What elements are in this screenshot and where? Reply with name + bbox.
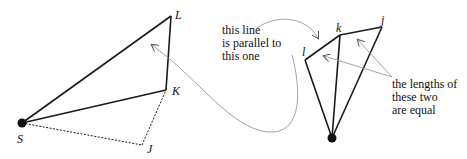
edge-SJ-dashed (22, 123, 142, 145)
parallel-note-line-3: this one (222, 50, 281, 63)
edge-Ol (305, 60, 332, 138)
label-K: K (172, 85, 180, 97)
label-L: L (175, 9, 182, 21)
equal-note-line-3: are equal (392, 104, 457, 117)
label-S: S (17, 133, 23, 145)
edge-lk (305, 35, 340, 60)
equal-arrows (324, 40, 392, 77)
edge-SL (22, 16, 171, 123)
right-figure (305, 27, 382, 143)
left-figure (18, 16, 172, 145)
parallel-note: this line is parallel to this one (222, 24, 281, 63)
label-J: J (147, 143, 152, 155)
equal-note: the lengths of these two are equal (392, 78, 457, 117)
vertex-origin-dot (328, 134, 337, 143)
label-j: j (381, 14, 384, 26)
edge-kj (340, 27, 382, 35)
edge-LK (166, 16, 171, 90)
vertex-S-dot (18, 119, 27, 128)
label-k: k (336, 22, 341, 34)
label-l: l (302, 46, 305, 58)
edge-JK-dashed (142, 90, 166, 145)
edge-KS (22, 90, 166, 123)
